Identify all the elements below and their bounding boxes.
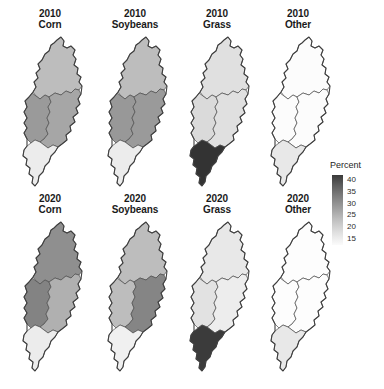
panel-title-year: 2020 (172, 193, 262, 204)
legend-tick-15: 15 (347, 235, 356, 243)
panel-title-category: Grass (172, 19, 262, 30)
panel-title-p2010-other: 2010Other (253, 8, 343, 30)
panel-title-category: Other (253, 19, 343, 30)
legend-gradient-fill (332, 175, 343, 245)
legend-gradient-bar (332, 175, 343, 245)
map-panel-p2010-grass: 2010Grass (172, 8, 262, 193)
map-panel-p2020-soybeans: 2020Soybeans (90, 193, 180, 378)
panel-title-year: 2020 (90, 193, 180, 204)
panel-title-p2010-soybeans: 2010Soybeans (90, 8, 180, 30)
legend-tick-40: 40 (347, 176, 356, 184)
legend-colorbar: Percent 403530252015 (330, 160, 384, 252)
map-panel-p2010-soybeans: 2010Soybeans (90, 8, 180, 193)
panel-title-category: Grass (172, 204, 262, 215)
map-panel-p2010-corn: 2010Corn (5, 8, 95, 193)
watershed-map-p2020-corn (5, 217, 95, 377)
panel-title-p2010-grass: 2010Grass (172, 8, 262, 30)
subbasin-south (271, 325, 306, 371)
map-panel-p2020-grass: 2020Grass (172, 193, 262, 378)
watershed-map-p2010-soybeans (90, 32, 180, 192)
map-holder-p2020-soybeans (90, 217, 180, 377)
panel-title-category: Corn (5, 204, 95, 215)
watershed-map-p2010-grass (172, 32, 262, 192)
map-holder-p2020-corn (5, 217, 95, 377)
subbasin-south (108, 140, 143, 186)
panel-title-p2020-soybeans: 2020Soybeans (90, 193, 180, 215)
panel-title-year: 2020 (5, 193, 95, 204)
legend-tick-30: 30 (347, 200, 356, 208)
panel-title-year: 2010 (90, 8, 180, 19)
subbasin-south (108, 325, 143, 371)
panel-title-category: Soybeans (90, 19, 180, 30)
map-holder-p2010-grass (172, 32, 262, 192)
panel-title-year: 2010 (253, 8, 343, 19)
panel-title-p2020-corn: 2020Corn (5, 193, 95, 215)
watershed-map-p2010-corn (5, 32, 95, 192)
legend-tick-35: 35 (347, 188, 356, 196)
panel-title-p2020-grass: 2020Grass (172, 193, 262, 215)
subbasin-south (190, 140, 225, 186)
panel-title-year: 2010 (5, 8, 95, 19)
subbasin-south (23, 325, 58, 371)
panel-title-category: Soybeans (90, 204, 180, 215)
subbasin-south (23, 140, 58, 186)
map-holder-p2010-corn (5, 32, 95, 192)
legend-title: Percent (330, 160, 382, 170)
map-panel-p2020-corn: 2020Corn (5, 193, 95, 378)
panel-title-p2010-corn: 2010Corn (5, 8, 95, 30)
subbasin-south (190, 325, 225, 371)
watershed-map-p2020-grass (172, 217, 262, 377)
figure-panel-grid: 2010Corn2010Soybeans2010Grass2010Other20… (0, 0, 384, 389)
legend-tick-25: 25 (347, 211, 356, 219)
map-holder-p2020-grass (172, 217, 262, 377)
panel-title-year: 2010 (172, 8, 262, 19)
subbasin-south (271, 140, 306, 186)
panel-title-category: Corn (5, 19, 95, 30)
legend-tick-20: 20 (347, 223, 356, 231)
watershed-map-p2020-soybeans (90, 217, 180, 377)
map-holder-p2010-soybeans (90, 32, 180, 192)
